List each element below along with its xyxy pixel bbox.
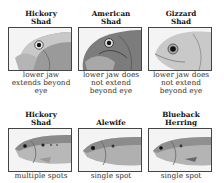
fish-title: Blueback Herring bbox=[148, 111, 214, 126]
caption-line: eye bbox=[6, 87, 76, 95]
title-line: Shad bbox=[8, 119, 74, 127]
alewife-body-image bbox=[78, 128, 142, 172]
title-line: Shad bbox=[8, 18, 74, 26]
fish-caption: lower jaw extends beyond eye bbox=[6, 71, 76, 96]
blueback-herring-body-image bbox=[148, 128, 212, 172]
fish-title: Hickory Shad bbox=[8, 111, 74, 126]
fish-title: Hickory Shad bbox=[8, 10, 74, 25]
fish-caption: multiple spots bbox=[6, 172, 76, 180]
fish-title: Alewife bbox=[78, 111, 144, 126]
hickory-shad-body-image bbox=[8, 128, 72, 172]
title-line: Shad bbox=[148, 18, 214, 26]
title-line: Alewife bbox=[78, 119, 144, 127]
title-line: Herring bbox=[148, 119, 214, 127]
hickory-shad-head-image bbox=[8, 27, 72, 71]
caption-line: beyond eye bbox=[76, 87, 146, 95]
fish-caption: lower jaw does not extend beyond eye bbox=[146, 71, 216, 96]
caption-line: beyond eye bbox=[146, 87, 216, 95]
title-line: Shad bbox=[78, 18, 144, 26]
fish-caption: single spot bbox=[76, 172, 146, 180]
fish-title: American Shad bbox=[78, 10, 144, 25]
fish-caption: lower jaw does not extend beyond eye bbox=[76, 71, 146, 96]
gizzard-shad-head-image bbox=[148, 27, 212, 71]
american-shad-head-image bbox=[78, 27, 142, 71]
fish-title: Gizzard Shad bbox=[148, 10, 214, 25]
fish-caption: single spot bbox=[146, 172, 216, 180]
